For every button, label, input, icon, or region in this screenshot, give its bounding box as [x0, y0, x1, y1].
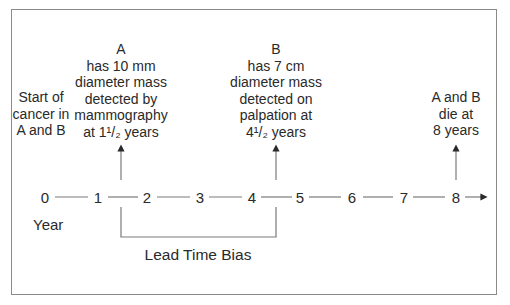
diagram-lines: [0, 0, 510, 305]
lead-time-bracket: [121, 207, 276, 237]
tick-0: 0: [41, 190, 49, 206]
axis-label: Year: [33, 216, 63, 233]
tick-4: 4: [248, 190, 256, 206]
tick-8: 8: [452, 190, 460, 206]
tick-1: 1: [94, 190, 102, 206]
tick-5: 5: [296, 190, 304, 206]
tick-7: 7: [400, 190, 408, 206]
tick-6: 6: [348, 190, 356, 206]
tick-2: 2: [143, 190, 151, 206]
bracket-label: Lead Time Bias: [145, 246, 252, 264]
tick-3: 3: [196, 190, 204, 206]
